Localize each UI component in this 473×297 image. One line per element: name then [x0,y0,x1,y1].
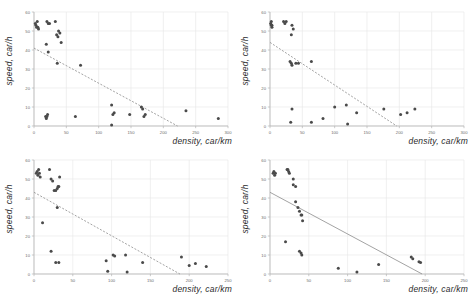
y-axis-label-0: speed, car/h [2,0,16,14]
y-tick-label: 10 [261,105,266,110]
x-tick-label: 50 [64,130,69,135]
plot-area-3: 0501001502002500102030405060 [236,148,472,296]
trend-line [34,48,178,126]
y-tick-label: 40 [261,48,266,53]
data-point [294,62,297,65]
data-point [110,124,113,127]
y-tick-label: 60 [261,10,266,15]
y-tick-label: 10 [261,253,266,258]
data-point [45,43,48,46]
data-point [274,172,277,175]
data-point [41,221,44,224]
y-tick-label: 30 [25,215,30,220]
y-tick-label: 50 [25,177,30,182]
data-point [106,270,109,273]
data-point [270,20,273,23]
data-point [290,107,293,110]
x-tick-label: 100 [331,130,339,135]
data-point [419,261,422,264]
data-point [301,219,304,222]
chart-panel-bottom-left: 0501001502002500102030405060 speed, car/… [0,148,236,296]
data-point [298,210,301,213]
x-tick-label: 0 [269,278,272,283]
data-point [290,64,293,67]
y-tick-label: 60 [261,158,266,163]
y-tick-label: 40 [25,48,30,53]
x-tick-label: 50 [70,278,75,283]
data-point [47,50,50,53]
y-tick-label: 60 [25,10,30,15]
data-point [290,33,293,36]
x-axis-label-0: density, car/km [172,136,232,146]
data-point [51,179,54,182]
y-tick-label: 50 [261,29,266,34]
data-point [56,35,59,38]
data-point [79,64,82,67]
data-point [37,168,40,171]
plot-area-2: 0501001502002500102030405060 [0,148,236,296]
x-tick-label: 250 [192,130,200,135]
data-point [124,254,127,257]
x-tick-label: 100 [95,130,103,135]
data-point [413,107,416,110]
data-point [377,263,380,266]
data-point [382,107,385,110]
y-tick-label: 40 [25,196,30,201]
plot-area-0: 0501001502002503000102030405060 [0,0,236,148]
data-point [56,62,59,65]
data-point [105,259,108,262]
data-point [285,20,288,23]
data-point [57,185,60,188]
trend-line [270,42,397,126]
x-tick-label: 0 [269,130,272,135]
x-axis-label-1: density, car/km [408,136,468,146]
data-point [411,257,414,260]
data-point [345,104,348,107]
y-tick-label: 20 [25,234,30,239]
y-tick-label: 50 [261,177,266,182]
x-tick-label: 250 [225,278,233,283]
y-axis-label-2: speed, car/h [2,70,16,162]
y-tick-label: 30 [261,215,266,220]
x-tick-label: 250 [428,130,436,135]
x-tick-label: 0 [33,130,36,135]
y-tick-label: 30 [261,67,266,72]
data-point [38,172,41,175]
data-point [292,183,295,186]
x-tick-label: 150 [383,278,391,283]
data-point [141,107,144,110]
chart-panel-top-right: 0501001502002503000102030405060 speed, c… [236,0,472,148]
data-point [300,214,303,217]
data-point [205,265,208,268]
x-tick-label: 0 [33,278,36,283]
y-tick-label: 10 [25,253,30,258]
x-tick-label: 300 [461,130,469,135]
data-point [337,267,340,270]
x-tick-label: 200 [396,130,404,135]
data-point [217,117,220,120]
data-point [126,271,129,274]
data-point [180,255,183,258]
data-point [37,28,40,31]
data-point [294,185,297,188]
data-point [296,206,299,209]
x-tick-label: 100 [108,278,116,283]
data-point [141,261,144,264]
x-tick-label: 100 [344,278,352,283]
data-point [128,113,131,116]
data-point [48,168,51,171]
x-axis-label-3: density, car/km [408,284,468,294]
y-tick-label: 0 [264,124,267,129]
data-point [54,20,57,23]
data-point [310,60,313,63]
data-point [58,176,61,179]
y-axis-label-3: speed, car/h [238,70,252,162]
data-point [284,240,287,243]
data-point [36,20,39,23]
y-axis-label-text-3: speed, car/h [240,162,250,256]
x-tick-label: 250 [461,278,469,283]
y-tick-label: 50 [25,29,30,34]
data-point [56,206,59,209]
data-point [144,113,147,116]
plot-area-1: 0501001502002503000102030405060 [236,0,472,148]
